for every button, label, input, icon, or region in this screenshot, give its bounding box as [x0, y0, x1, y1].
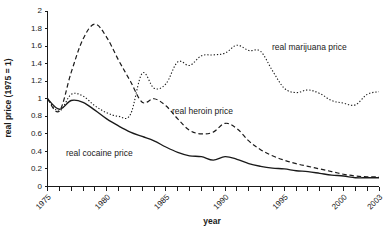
- y-tick-label: 1.6: [31, 41, 43, 50]
- cocaine-series-label: real cocaine price: [66, 148, 133, 158]
- y-tick-label: 0.8: [31, 111, 43, 120]
- y-tick-label: 0.4: [31, 147, 43, 156]
- x-tick-label: 1980: [93, 192, 112, 211]
- x-axis-title: year: [203, 216, 221, 226]
- y-axis-title: real price (1975 = 1): [3, 58, 13, 137]
- y-tick-label: 1.8: [31, 24, 43, 33]
- y-axis-tick-labels: 00.20.40.60.811.21.41.61.82: [31, 6, 43, 191]
- heroin-series-label: real heroin price: [172, 106, 233, 116]
- y-tick-label: 0.2: [31, 164, 43, 173]
- marijuana-series-label: real marijuana price: [272, 42, 347, 52]
- chart-figure: 00.20.40.60.811.21.41.61.82 197519801985…: [0, 0, 392, 231]
- x-axis: 1975198019851990199520002003: [34, 187, 385, 212]
- x-tick-label: 1990: [212, 192, 231, 211]
- x-tick-label: 1995: [271, 192, 290, 211]
- y-tick-label: 1: [38, 94, 43, 103]
- x-tick-label: 2000: [330, 192, 349, 211]
- line-chart: 00.20.40.60.811.21.41.61.82 197519801985…: [0, 0, 392, 231]
- x-tick-label: 1985: [152, 192, 171, 211]
- y-tick-label: 0.6: [31, 129, 43, 138]
- y-tick-label: 1.4: [31, 59, 43, 68]
- x-tick-label: 1975: [34, 192, 53, 211]
- y-tick-label: 2: [38, 6, 43, 15]
- y-tick-label: 0: [38, 182, 43, 191]
- x-axis-tick-labels: 1975198019851990199520002003: [34, 192, 385, 211]
- y-axis: 00.20.40.60.811.21.41.61.82: [31, 6, 48, 191]
- x-tick-label: 2003: [365, 192, 384, 211]
- y-tick-label: 1.2: [31, 76, 43, 85]
- x-axis-ticks: [48, 187, 380, 191]
